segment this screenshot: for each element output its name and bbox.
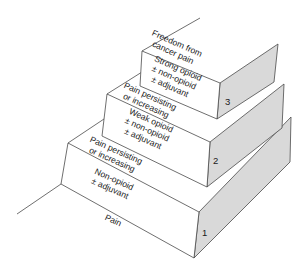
- step-3-number: 3: [225, 96, 230, 107]
- step-1-number: 1: [202, 227, 207, 238]
- floor-line: [17, 184, 61, 214]
- analgesic-ladder-diagram: 3 2 1 Freedom from cancer pain Strong op…: [0, 0, 302, 269]
- step-2-number: 2: [213, 155, 218, 166]
